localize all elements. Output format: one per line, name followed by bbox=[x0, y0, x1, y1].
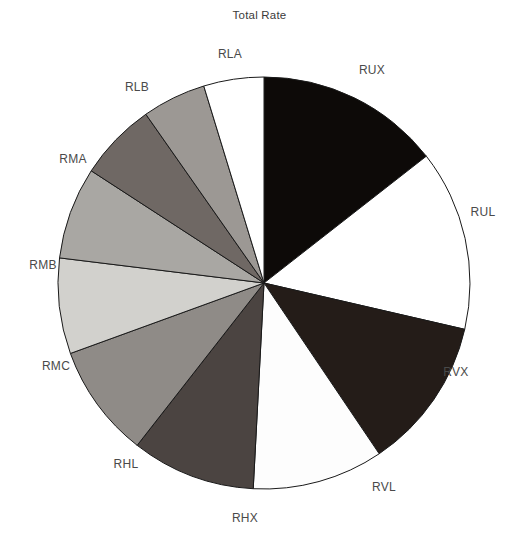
pie-slice-label-rul: RUL bbox=[471, 205, 496, 219]
pie-slice-label-rvx: RVX bbox=[443, 365, 468, 379]
pie-slice-label-rmc: RMC bbox=[42, 359, 70, 373]
pie-chart-svg bbox=[0, 0, 519, 545]
pie-slice-label-rlb: RLB bbox=[125, 80, 149, 94]
pie-slice-label-rux: RUX bbox=[359, 63, 385, 77]
pie-slice-label-rmb: RMB bbox=[29, 258, 57, 272]
pie-slice-label-rhl: RHL bbox=[114, 457, 139, 471]
pie-slice-label-rma: RMA bbox=[59, 152, 87, 166]
pie-slice-label-rhx: RHX bbox=[232, 511, 258, 525]
pie-slice-label-rvl: RVL bbox=[372, 480, 396, 494]
pie-slice-group bbox=[58, 77, 470, 489]
pie-chart-figure: Total Rate RUXRULRVXRVLRHXRHLRMCRMBRMARL… bbox=[0, 0, 519, 545]
pie-slice-label-rla: RLA bbox=[218, 47, 242, 61]
